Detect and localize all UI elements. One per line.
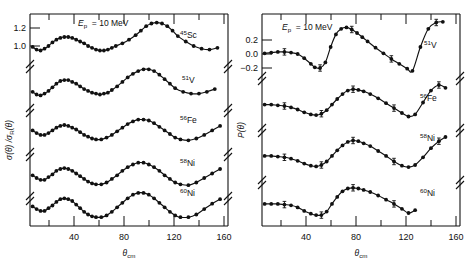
right-data-point [429,146,433,150]
right-data-point [407,165,411,169]
left-data-point [43,178,47,182]
right-data-point [334,33,338,37]
left-data-point [115,85,119,89]
left-data-point [106,91,110,95]
right-data-point [384,198,388,202]
left-data-point [39,49,43,53]
left-data-point [58,124,62,128]
left-data-point [110,133,114,137]
left-data-point [90,91,94,95]
left-data-point [194,181,198,185]
right-data-point [368,190,372,194]
left-data-point [110,46,114,50]
right-data-point [356,187,360,191]
left-data-point [78,130,82,134]
left-data-point [150,22,154,26]
left-data-point [55,38,59,42]
left-data-point [86,135,90,139]
left-data-point [152,121,156,125]
left-data-point [142,191,146,195]
left-data-point [126,196,130,200]
left-curve-label-51v: 51V [182,74,195,85]
left-data-point [39,94,43,98]
left-data-point [94,48,98,52]
left-data-point [131,72,135,76]
right-data-point [376,96,380,100]
left-data-point [136,161,140,165]
left-data-point [168,210,172,214]
right-data-point [313,65,317,69]
left-data-point [74,203,78,207]
left-data-point [157,125,161,129]
left-data-point [173,86,177,90]
left-data-point [94,182,98,186]
left-data-point [82,133,86,137]
right-data-point [341,189,345,193]
right-data-point [356,88,360,92]
left-data-point [39,133,43,137]
left-data-point [152,165,156,169]
left-data-point [62,166,66,170]
left-data-point [94,215,98,219]
left-curve-label-60ni: 60Ni [180,187,195,198]
left-data-point [127,38,131,42]
right-data-point [366,40,370,44]
left-data-point [187,183,191,187]
right-ytick-neg02: −0.2 [240,63,258,73]
left-data-point [147,67,151,71]
left-data-point [105,214,109,218]
right-xtick-160: 160 [448,232,463,242]
right-data-point [269,51,273,55]
left-x-axis-label: θcm [123,248,136,259]
right-data-point [413,208,417,212]
left-data-point [197,92,201,96]
left-data-point [152,69,156,73]
left-data-point [55,200,59,204]
left-data-point [142,67,146,71]
right-data-point [309,164,313,168]
right-data-point [407,211,411,215]
right-data-point [421,101,425,105]
left-data-point [147,193,151,197]
right-data-point [335,148,339,152]
left-data-point [163,173,167,177]
left-data-point [35,176,39,180]
left-data-point [51,204,55,208]
left-data-point [90,137,94,141]
right-data-point [302,209,306,213]
left-data-point [58,79,62,83]
left-data-point [163,77,167,81]
left-data-point [157,73,161,77]
left-data-point [55,126,59,130]
right-data-point [302,110,306,114]
right-data-point [356,139,360,143]
left-data-point [66,78,70,82]
left-data-point [99,182,103,186]
left-data-point [35,207,39,211]
right-data-point [345,26,349,30]
left-data-point [47,206,51,210]
left-data-point [70,169,74,173]
right-curve-60Ni [265,188,415,216]
left-xtick-80: 80 [119,232,129,242]
left-data-point [173,136,177,140]
left-data-point [82,87,86,91]
left-data-point [99,215,103,219]
right-data-point [400,164,404,168]
right-data-point [411,69,415,73]
left-data-point [66,124,70,128]
left-data-point [35,93,39,97]
right-data-point [362,89,366,93]
left-curve-label-58ni: 58Ni [180,157,195,168]
left-data-point [187,138,191,142]
right-data-point [362,188,366,192]
left-data-point [62,35,66,39]
right-ytick-00: 0.0 [245,49,258,59]
left-panel-frame [30,14,228,226]
right-data-point [269,103,273,107]
right-data-point [325,160,329,164]
left-curve-label-45sc: 45Sc [180,29,198,40]
left-data-point [192,44,196,48]
left-data-point [86,89,90,93]
right-data-point [289,203,293,207]
